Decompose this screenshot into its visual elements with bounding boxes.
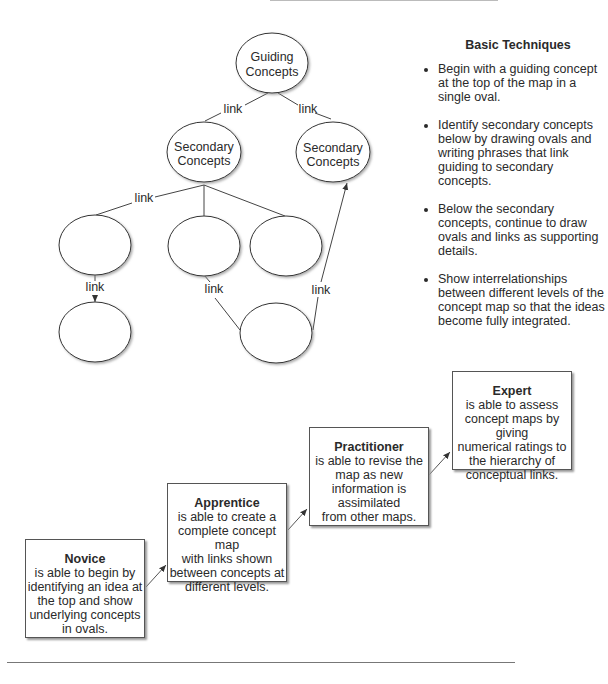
apprentice-title: Apprentice	[168, 496, 286, 510]
novice-line: underlying concepts	[26, 608, 144, 622]
technique-item: Show interrelationships between differen…	[438, 272, 608, 328]
supporting-oval	[59, 302, 131, 362]
novice-line: in ovals.	[26, 622, 144, 636]
apprentice-line: between concepts at	[168, 566, 286, 580]
apprentice-line: complete concept map	[168, 524, 286, 552]
bottom-divider	[7, 662, 515, 663]
supporting-oval	[168, 216, 240, 276]
expert-title: Expert	[453, 384, 571, 398]
practitioner-box: Practitioner is able to revise the map a…	[309, 427, 429, 526]
practitioner-line: information is	[310, 482, 428, 496]
link-label: link	[312, 283, 332, 297]
apprentice-box: Apprentice is able to create a complete …	[167, 483, 287, 582]
novice-line: is able to begin by	[26, 566, 144, 580]
link-label: link	[86, 280, 106, 294]
guiding-label-1: Guiding	[250, 50, 293, 64]
practitioner-line: from other maps.	[310, 510, 428, 524]
apprentice-line: is able to create a	[168, 510, 286, 524]
basic-techniques-title: Basic Techniques	[418, 38, 608, 52]
technique-item: Identify secondary concepts below by dra…	[438, 118, 608, 188]
secondary-right-label-1: Secondary	[303, 141, 364, 155]
novice-line: the top and show	[26, 594, 144, 608]
expert-line: conceptual links.	[453, 468, 571, 482]
link-label: link	[224, 102, 244, 116]
novice-box: Novice is able to begin by identifying a…	[25, 539, 145, 638]
novice-title: Novice	[26, 552, 144, 566]
techniques-list: Begin with a guiding concept at the top …	[418, 62, 608, 328]
novice-line: identifying an idea at	[26, 580, 144, 594]
practitioner-line: map as new	[310, 468, 428, 482]
apprentice-line: different levels.	[168, 580, 286, 594]
expert-line: concept maps by giving	[453, 412, 571, 440]
supporting-oval	[240, 303, 312, 363]
apprentice-line: with links shown	[168, 552, 286, 566]
secondary-right-label-2: Concepts	[307, 155, 360, 169]
expert-line: the hierarchy of	[453, 454, 571, 468]
basic-techniques-panel: Basic Techniques Begin with a guiding co…	[418, 38, 608, 342]
supporting-oval	[59, 215, 131, 275]
practitioner-line: is able to revise the	[310, 454, 428, 468]
link-label: link	[135, 191, 155, 205]
supporting-oval	[250, 216, 322, 276]
secondary-left-label-2: Concepts	[178, 154, 231, 168]
guiding-label-2: Concepts	[246, 65, 299, 79]
secondary-left-label-1: Secondary	[174, 140, 235, 154]
practitioner-title: Practitioner	[310, 440, 428, 454]
technique-item: Below the secondary concepts, continue t…	[438, 202, 608, 258]
technique-item: Begin with a guiding concept at the top …	[438, 62, 608, 104]
link-label: link	[299, 102, 319, 116]
expert-box: Expert is able to assess concept maps by…	[452, 371, 572, 470]
link-label: link	[205, 282, 225, 296]
practitioner-line: assimilated	[310, 496, 428, 510]
expert-line: is able to assess	[453, 398, 571, 412]
expert-line: numerical ratings to	[453, 440, 571, 454]
